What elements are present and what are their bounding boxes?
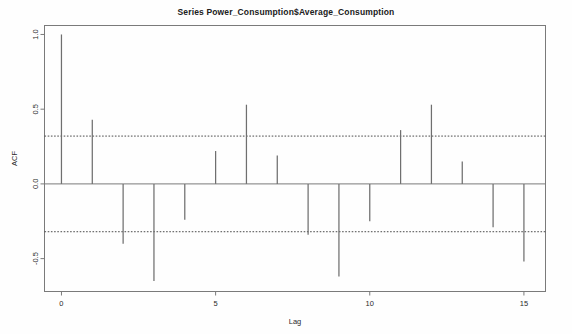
x-tick-label: 5 [214, 299, 218, 308]
x-axis-title: Lag [289, 317, 302, 326]
x-tick-label: 15 [520, 299, 528, 308]
axes-group [41, 26, 546, 296]
axis-titles-group: LagACF [10, 151, 302, 326]
tick-labels-group: 1.00.50.0-0.5051015 [31, 29, 528, 308]
acf-bars-group [61, 34, 523, 281]
y-tick-label: 0.0 [31, 179, 40, 189]
chart-canvas: 1.00.50.0-0.5051015 LagACF [0, 0, 572, 334]
acf-plot-figure: Series Power_Consumption$Average_Consump… [0, 0, 572, 334]
plot-box [45, 26, 546, 292]
y-tick-label: -0.5 [31, 252, 40, 265]
x-tick-label: 10 [366, 299, 374, 308]
y-tick-label: 1.0 [31, 29, 40, 39]
y-tick-label: 0.5 [31, 104, 40, 114]
y-axis-title: ACF [10, 151, 19, 166]
x-tick-label: 0 [59, 299, 63, 308]
